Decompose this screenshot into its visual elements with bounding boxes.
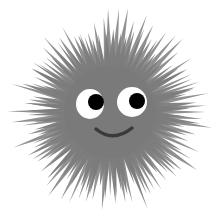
left-pupil [88, 94, 104, 110]
sea-urchin-illustration [0, 0, 217, 218]
right-pupil [129, 93, 145, 109]
